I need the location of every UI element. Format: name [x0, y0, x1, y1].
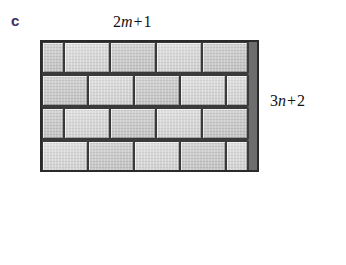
brick-half: [41, 107, 65, 140]
brick-half: [225, 74, 249, 107]
brick-full: [87, 74, 135, 107]
top-constant: 1: [144, 13, 152, 30]
brick-half: [41, 41, 65, 74]
brick-full: [155, 107, 203, 140]
figure-container: c 2m+1 3n+2: [0, 0, 346, 265]
brick-full: [41, 140, 89, 172]
right-variable: n: [278, 92, 286, 109]
brick-full: [87, 140, 135, 172]
brick-full: [109, 107, 157, 140]
brick-full: [155, 41, 203, 74]
right-constant: 2: [297, 92, 305, 109]
brick-full: [133, 140, 181, 172]
right-operator: +: [286, 92, 297, 109]
top-dimension-label: 2m+1: [113, 14, 152, 30]
right-coefficient: 3: [270, 92, 278, 109]
brick-half: [225, 140, 249, 172]
brick-full: [109, 41, 157, 74]
brick-full: [63, 107, 111, 140]
brick-full: [133, 74, 181, 107]
part-letter-label: c: [11, 13, 19, 28]
top-variable: m: [121, 13, 133, 30]
brick-row: [42, 75, 257, 108]
brick-full: [41, 74, 89, 107]
brick-full: [201, 107, 249, 140]
brick-row: [42, 141, 257, 172]
brick-full: [179, 140, 227, 172]
brick-wall-rectangle: [40, 40, 259, 172]
brick-full: [201, 41, 249, 74]
right-dimension-label: 3n+2: [270, 93, 305, 109]
brick-row: [42, 42, 257, 75]
top-coefficient: 2: [113, 13, 121, 30]
top-operator: +: [133, 13, 144, 30]
brick-full: [63, 41, 111, 74]
brick-row: [42, 108, 257, 141]
brick-full: [179, 74, 227, 107]
